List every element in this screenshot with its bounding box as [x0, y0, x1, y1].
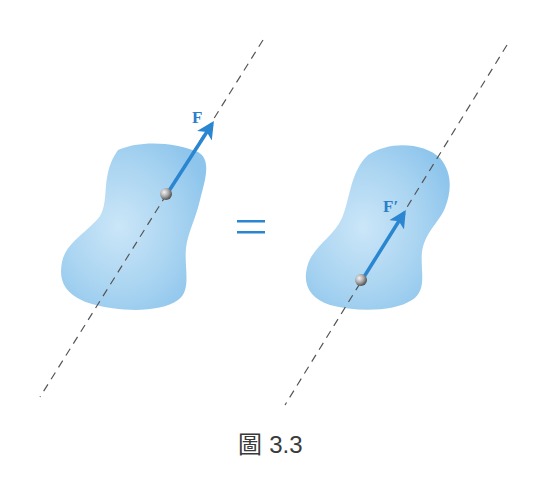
left-panel: F — [40, 40, 263, 397]
rigid-body-right — [306, 145, 450, 310]
force-label-f-prime: F′ — [383, 197, 398, 216]
application-point-right — [355, 274, 367, 286]
line-of-action-left — [40, 40, 263, 397]
application-point-left — [160, 188, 172, 200]
principle-of-transmissibility-figure: F F′ — [0, 0, 541, 479]
equals-sign — [237, 220, 265, 234]
right-panel: F′ — [285, 45, 507, 405]
figure-caption: 圖 3.3 — [0, 425, 541, 460]
force-label-f: F — [192, 108, 202, 127]
